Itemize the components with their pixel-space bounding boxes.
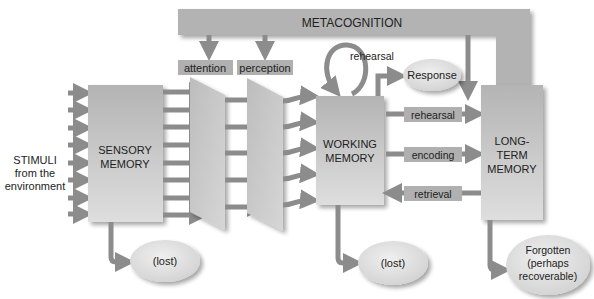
rehearsal-transfer-label: rehearsal bbox=[411, 109, 455, 121]
retrieval-transfer-label: retrieval bbox=[414, 188, 451, 200]
perception-label: perception bbox=[239, 62, 290, 74]
working-memory-label-1: WORKING bbox=[323, 138, 377, 150]
working-lost-label: (lost) bbox=[381, 257, 405, 269]
long-term-memory-label-2: TERM bbox=[496, 149, 527, 161]
long-term-memory-label-3: MEMORY bbox=[487, 163, 537, 175]
working-memory-label-2: MEMORY bbox=[325, 152, 375, 164]
long-term-memory-label-1: LONG- bbox=[495, 135, 530, 147]
svg-text:from the: from the bbox=[15, 167, 55, 179]
encoding-transfer-label: encoding bbox=[412, 149, 455, 161]
response-arrow bbox=[378, 76, 398, 96]
stimuli-label: STIMULI from the environment bbox=[5, 154, 66, 192]
sensory-lost-label: (lost) bbox=[153, 255, 177, 267]
response-label: Response bbox=[407, 69, 457, 81]
svg-text:STIMULI: STIMULI bbox=[13, 154, 56, 166]
forgotten-label-2: (perhaps bbox=[527, 257, 568, 269]
perception-to-working-arrows bbox=[283, 96, 311, 205]
forgotten-label-1: Forgotten bbox=[526, 244, 571, 256]
attention-filter bbox=[190, 77, 225, 230]
sensory-memory-label-1: SENSORY bbox=[98, 144, 152, 156]
perception-filter bbox=[247, 78, 283, 231]
rehearsal-loop-label: rehearsal bbox=[350, 50, 394, 62]
memory-model-diagram: METACOGNITION attention perception STIMU… bbox=[0, 0, 594, 299]
stimuli-arrows bbox=[68, 93, 84, 214]
working-memory-box bbox=[316, 96, 384, 205]
metacognition-label: METACOGNITION bbox=[302, 16, 402, 30]
attention-label: attention bbox=[184, 62, 226, 74]
sensory-memory-label-2: MEMORY bbox=[100, 158, 150, 170]
svg-text:environment: environment bbox=[5, 180, 66, 192]
forgotten-label-3: recoverable) bbox=[519, 270, 577, 282]
